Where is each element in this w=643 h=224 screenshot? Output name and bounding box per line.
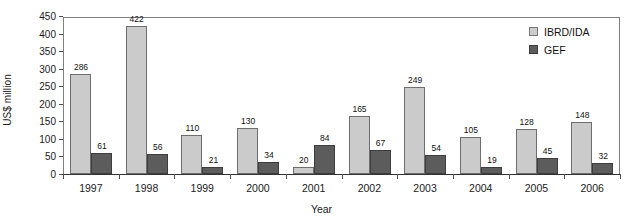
x-axis-tick-mark <box>564 174 565 179</box>
legend-swatch-icon <box>529 27 538 36</box>
bar-group: 24954 <box>398 18 454 174</box>
legend-label: GEF <box>544 44 566 56</box>
bar-value-label: 56 <box>138 143 178 152</box>
bar-gef-2000 <box>258 162 279 174</box>
bar-value-label: 84 <box>305 134 345 143</box>
x-axis-tick-label-2001: 2001 <box>284 182 344 194</box>
bar-group: 28661 <box>64 18 120 174</box>
x-axis-tick-label-2005: 2005 <box>506 182 566 194</box>
x-axis-tick-mark <box>509 174 510 179</box>
bar-value-label: 422 <box>117 15 157 24</box>
x-axis-tick-label-2002: 2002 <box>339 182 399 194</box>
bar-value-label: 67 <box>361 139 401 148</box>
bar-value-label: 32 <box>583 152 623 161</box>
y-axis-tick-label: 150 <box>26 117 56 127</box>
x-axis-tick-label-2003: 2003 <box>395 182 455 194</box>
x-axis-tick-label-1998: 1998 <box>117 182 177 194</box>
x-axis-tick-label-1997: 1997 <box>61 182 121 194</box>
x-axis-tick-mark <box>342 174 343 179</box>
y-axis-tick-label: 350 <box>26 47 56 57</box>
x-axis-tick-mark <box>286 174 287 179</box>
bar-ibrd-ida-2003 <box>404 87 425 174</box>
x-axis-tick-label-2004: 2004 <box>451 182 511 194</box>
bar-value-label: 148 <box>562 111 602 120</box>
bar-gef-2005 <box>537 158 558 174</box>
bar-gef-1999 <box>202 167 223 174</box>
y-axis-tick-label: 100 <box>26 135 56 145</box>
y-axis-tick-label: 300 <box>26 65 56 75</box>
y-axis-tick-label: 200 <box>26 100 56 110</box>
bar-gef-1998 <box>147 154 168 174</box>
bar-group: 13034 <box>231 18 287 174</box>
x-axis-tick-label-2000: 2000 <box>228 182 288 194</box>
bar-value-label: 19 <box>472 156 512 165</box>
x-axis-tick-label-1999: 1999 <box>172 182 232 194</box>
y-axis-tick-label: 450 <box>26 12 56 22</box>
bar-value-label: 54 <box>416 144 456 153</box>
x-axis-tick-mark <box>174 174 175 179</box>
bar-value-label: 165 <box>340 105 380 114</box>
x-axis-tick-mark <box>397 174 398 179</box>
bar-value-label: 249 <box>395 76 435 85</box>
y-axis-tick-label: 400 <box>26 30 56 40</box>
bar-value-label: 128 <box>507 118 547 127</box>
y-axis-title: US$ million <box>2 60 13 140</box>
bar-gef-1997 <box>91 153 112 174</box>
bar-ibrd-ida-2001 <box>293 167 314 174</box>
bar-value-label: 110 <box>172 124 212 133</box>
legend-item-gef: GEF <box>529 42 590 57</box>
bar-value-label: 61 <box>82 142 122 151</box>
x-axis-title: Year <box>0 203 643 215</box>
y-axis-tick-label: 250 <box>26 82 56 92</box>
bar-gef-2004 <box>481 167 502 174</box>
bar-gef-2001 <box>314 145 335 174</box>
bar-ibrd-ida-2006 <box>571 122 592 174</box>
y-axis-tick-labels: 050100150200250300350400450 <box>26 11 56 175</box>
bar-group: 10519 <box>454 18 510 174</box>
x-axis-tick-mark <box>620 174 621 179</box>
bar-gef-2006 <box>592 163 613 174</box>
bar-value-label: 105 <box>451 126 491 135</box>
legend-item-ibrd-ida: IBRD/IDA <box>529 24 590 39</box>
legend-label: IBRD/IDA <box>544 26 590 38</box>
x-axis-tick-mark <box>230 174 231 179</box>
legend-swatch-icon <box>529 45 538 54</box>
bar-value-label: 45 <box>528 147 568 156</box>
x-axis-tick-mark <box>119 174 120 179</box>
chart-legend: IBRD/IDAGEF <box>529 24 590 60</box>
y-axis-tick-label: 0 <box>26 170 56 180</box>
bar-chart: US$ million 050100150200250300350400450 … <box>0 0 643 224</box>
x-axis-tick-mark <box>453 174 454 179</box>
bar-value-label: 21 <box>193 156 233 165</box>
bar-group: 16567 <box>343 18 399 174</box>
bar-gef-2003 <box>425 155 446 174</box>
bar-value-label: 130 <box>228 117 268 126</box>
y-axis-tick-label: 50 <box>26 152 56 162</box>
bar-group: 2084 <box>287 18 343 174</box>
bar-group: 42256 <box>120 18 176 174</box>
bar-value-label: 286 <box>61 63 101 72</box>
bar-gef-2002 <box>370 150 391 174</box>
bar-ibrd-ida-1997 <box>70 74 91 174</box>
x-axis-tick-label-2006: 2006 <box>562 182 622 194</box>
x-axis-tick-mark <box>63 174 64 179</box>
bar-group: 11021 <box>175 18 231 174</box>
